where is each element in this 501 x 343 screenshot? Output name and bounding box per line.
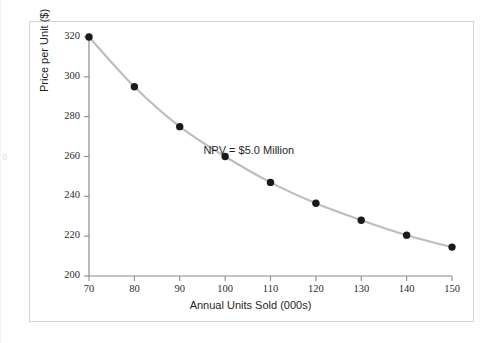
page-edge-rule xyxy=(0,0,1,343)
x-tick-label: 110 xyxy=(255,283,287,294)
x-tick-label: 140 xyxy=(391,283,423,294)
x-tick-label: 90 xyxy=(164,283,196,294)
x-tick-label: 70 xyxy=(73,283,105,294)
y-tick-label: 260 xyxy=(52,150,80,161)
page-canvas: 0 200220240260280300320 7080901001101201… xyxy=(0,0,501,343)
x-axis-title: Annual Units Sold (000s) xyxy=(0,299,501,311)
y-tick-label: 320 xyxy=(52,30,80,41)
x-tick-label: 120 xyxy=(300,283,332,294)
page-edge-artifact: 0 xyxy=(2,152,7,162)
y-tick-label: 240 xyxy=(52,189,80,200)
x-tick-label: 130 xyxy=(345,283,377,294)
y-tick-label: 200 xyxy=(52,269,80,280)
y-tick-label: 300 xyxy=(52,70,80,81)
figure-frame xyxy=(29,21,474,322)
x-tick-label: 80 xyxy=(118,283,150,294)
y-axis-title: Price per Unit ($) xyxy=(38,0,50,92)
y-tick-label: 280 xyxy=(52,110,80,121)
x-tick-label: 150 xyxy=(436,283,468,294)
y-tick-label: 220 xyxy=(52,229,80,240)
x-tick-label: 100 xyxy=(209,283,241,294)
npv-annotation: NPV = $5.0 Million xyxy=(203,144,294,156)
